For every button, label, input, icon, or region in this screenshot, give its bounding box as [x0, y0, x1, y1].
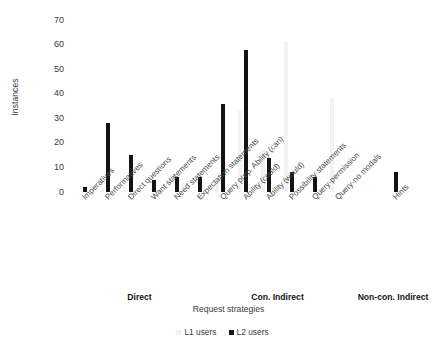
- x-axis-category-labels: ImperativesPerformativesDirect questions…: [0, 192, 421, 287]
- bar-l1: [284, 42, 288, 192]
- y-tick-label: 30: [28, 114, 64, 123]
- y-tick-label: 60: [28, 40, 64, 49]
- legend-swatch-icon: [176, 330, 181, 335]
- y-tick-label: 20: [28, 138, 64, 147]
- y-tick-label: 70: [28, 16, 64, 25]
- x-axis-title: Request strategies: [0, 304, 421, 314]
- legend-swatch-icon: [229, 330, 234, 335]
- legend-item: L2 users: [229, 327, 269, 337]
- top-clipped-artifact: [126, 0, 166, 4]
- legend-label: L1 users: [184, 327, 216, 337]
- y-tick-label: 40: [28, 89, 64, 98]
- x-group-label: Non-con. Indirect: [323, 292, 433, 302]
- legend-item: L1 users: [176, 327, 216, 337]
- y-axis-title: Instances: [10, 52, 20, 142]
- y-tick-label: 10: [28, 163, 64, 172]
- x-group-label: Direct: [70, 292, 210, 302]
- y-tick-label: 50: [28, 65, 64, 74]
- chart-legend: L1 usersL2 users: [0, 327, 421, 337]
- legend-label: L2 users: [237, 327, 269, 337]
- y-axis-tick-labels: 010203040506070: [28, 0, 64, 200]
